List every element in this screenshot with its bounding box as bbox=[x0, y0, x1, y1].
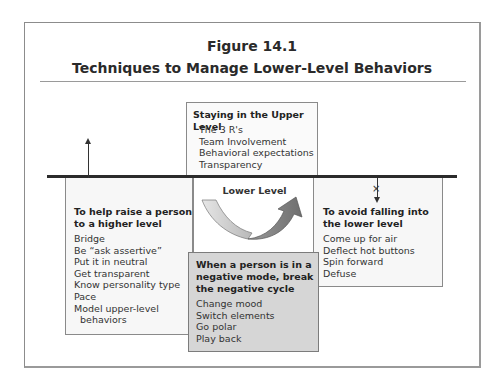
list-item: The 3 R's bbox=[199, 124, 314, 136]
figure-number: Figure 14.1 bbox=[0, 38, 504, 54]
up-arrow-head-icon bbox=[85, 138, 91, 144]
x-mark-icon: × bbox=[372, 184, 380, 194]
list-item: Be “ask assertive” bbox=[74, 245, 180, 257]
list-item: Bridge bbox=[74, 233, 180, 245]
list-item: Spin forward bbox=[323, 256, 415, 268]
list-item: Put it in neutral bbox=[74, 256, 180, 268]
list-item: Know personality type bbox=[74, 279, 180, 291]
list-item: Play back bbox=[196, 333, 275, 345]
raise-person-heading: To help raise a person to a higher level bbox=[74, 206, 192, 230]
negative-cycle-box: When a person is in a negative mode, bre… bbox=[188, 252, 319, 352]
list-item: Transparency bbox=[199, 159, 314, 171]
list-item: Behavioral expectations bbox=[199, 147, 314, 159]
raise-person-box: To help raise a person to a higher level… bbox=[65, 177, 193, 335]
list-item: Go polar bbox=[196, 321, 275, 333]
list-item: Team Involvement bbox=[199, 136, 314, 148]
figure-title: Techniques to Manage Lower-Level Behavio… bbox=[0, 60, 504, 76]
list-item: Model upper-level bbox=[74, 303, 180, 315]
list-item: Deflect hot buttons bbox=[323, 245, 415, 257]
upper-level-list: The 3 R's Team Involvement Behavioral ex… bbox=[199, 124, 314, 170]
list-item: behaviors bbox=[74, 314, 180, 326]
list-item: Change mood bbox=[196, 298, 275, 310]
level-divider-line bbox=[47, 175, 457, 178]
down-arrow-head-icon bbox=[374, 197, 380, 203]
negative-cycle-heading: When a person is in a negative mode, bre… bbox=[196, 259, 318, 295]
list-item: Switch elements bbox=[196, 310, 275, 322]
list-item: Get transparent bbox=[74, 268, 180, 280]
list-item: Come up for air bbox=[323, 233, 415, 245]
avoid-falling-list: Come up for air Deflect hot buttons Spin… bbox=[323, 233, 415, 279]
list-item: Defuse bbox=[323, 268, 415, 280]
avoid-falling-heading: To avoid falling into the lower level bbox=[323, 206, 441, 230]
list-item: Pace bbox=[74, 291, 180, 303]
upper-level-box: Staying in the Upper Level The 3 R's Tea… bbox=[186, 102, 318, 176]
title-divider bbox=[40, 81, 466, 82]
u-turn-arrow-icon bbox=[200, 195, 310, 245]
negative-cycle-list: Change mood Switch elements Go polar Pla… bbox=[196, 298, 275, 344]
up-arrow-icon bbox=[88, 141, 89, 178]
raise-person-list: Bridge Be “ask assertive” Put it in neut… bbox=[74, 233, 180, 326]
